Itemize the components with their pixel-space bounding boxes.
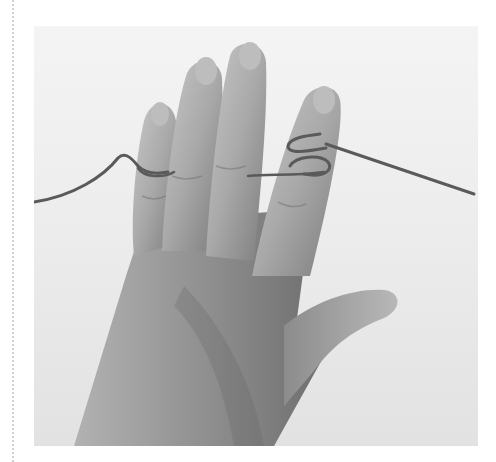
photo-illustration bbox=[34, 26, 478, 446]
nail-ring bbox=[195, 57, 217, 85]
nail-index bbox=[313, 86, 335, 114]
nail-little bbox=[151, 102, 169, 126]
dotted-margin-rule bbox=[12, 0, 14, 462]
hand-yarn-photo: Hand with yarn wrapped around the index … bbox=[34, 26, 478, 446]
nail-middle bbox=[239, 42, 261, 70]
